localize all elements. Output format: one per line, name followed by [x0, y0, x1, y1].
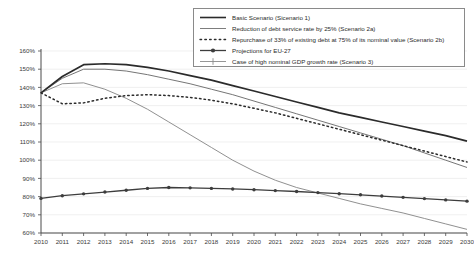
x-axis-tick-label: 2027 — [396, 238, 410, 245]
y-axis-tick-label: 70% — [23, 211, 36, 218]
y-axis-tick-label: 140% — [19, 84, 35, 91]
x-axis-tick-label: 2024 — [332, 238, 346, 245]
chart-legend: Basic Scenario (Sicenario 1) Reduction o… — [193, 8, 465, 67]
y-axis-tick-label: 150% — [19, 65, 35, 72]
data-point-marker — [295, 190, 298, 193]
series-line — [41, 93, 467, 162]
x-axis-tick-label: 2018 — [205, 238, 219, 245]
x-axis-tick-label: 2013 — [98, 238, 112, 245]
data-point-marker — [401, 196, 404, 199]
y-axis-tick-label: 110% — [20, 138, 36, 145]
legend-item: Case of high nominal GDP growth rate (Sc… — [198, 56, 460, 67]
legend-item-label: Repurchase of 33% of existing debt at 75… — [232, 34, 444, 45]
series-line — [41, 64, 467, 141]
data-point-marker — [61, 194, 64, 197]
data-point-marker — [274, 189, 277, 192]
data-point-marker — [210, 187, 213, 190]
gridlines-group — [41, 51, 467, 233]
x-axis-tick-label: 2030 — [460, 238, 474, 245]
x-axis-tick-label: 2028 — [418, 238, 432, 245]
data-point-marker — [423, 197, 426, 200]
legend-item: Repurchase of 33% of existing debt at 75… — [198, 34, 460, 45]
data-point-marker — [125, 189, 128, 192]
x-axis-tick-label: 2012 — [77, 238, 91, 245]
data-point-marker — [146, 187, 149, 190]
y-axis-tick-label: 130% — [19, 102, 35, 109]
data-point-marker — [359, 193, 362, 196]
legend-item: Basic Scenario (Sicenario 1) — [198, 12, 460, 23]
data-point-marker — [316, 191, 319, 194]
x-axis-tick-label: 2022 — [290, 238, 304, 245]
legend-item-label: Case of high nominal GDP growth rate (Sc… — [232, 56, 373, 67]
x-axis-labels: 2010201120122013201420152016201720182019… — [34, 238, 474, 245]
data-point-marker — [380, 194, 383, 197]
marker-line-swatch — [198, 45, 228, 56]
x-axis-tick-label: 2019 — [226, 238, 240, 245]
legend-item-label: Projections for EU-27 — [232, 45, 291, 56]
solid-thin-swatch — [198, 23, 228, 34]
y-axis-tick-label: 160% — [19, 47, 35, 54]
data-point-marker — [465, 199, 468, 202]
axes-group — [41, 49, 467, 233]
x-axis-tick-label: 2011 — [56, 238, 70, 245]
legend-item: Reduction of debt service rate by 25% (S… — [198, 23, 460, 34]
legend-item: Projections for EU-27 — [198, 45, 460, 56]
y-axis-tick-label: 80% — [23, 193, 36, 200]
legend-item-label: Reduction of debt service rate by 25% (S… — [232, 23, 375, 34]
marker-cross-swatch — [198, 56, 228, 67]
data-point-marker — [82, 192, 85, 195]
x-axis-tick-label: 2014 — [119, 238, 133, 245]
data-point-marker — [338, 192, 341, 195]
data-point-marker — [188, 186, 191, 189]
x-axis-tick-label: 2029 — [439, 238, 453, 245]
y-axis-labels: 160%150%140%130%120%110%100%90%80%70%60% — [19, 47, 35, 236]
x-axis-tick-label: 2025 — [354, 238, 368, 245]
data-point-marker — [252, 188, 255, 191]
y-axis-tick-label: 60% — [23, 229, 36, 236]
legend-item-label: Basic Scenario (Sicenario 1) — [232, 12, 310, 23]
data-point-marker — [39, 197, 42, 200]
solid-thick-swatch — [198, 12, 228, 23]
data-point-marker — [444, 198, 447, 201]
x-axis-tick-label: 2016 — [162, 238, 176, 245]
x-axis-tick-label: 2020 — [247, 238, 261, 245]
x-axis-tick-label: 2015 — [141, 238, 155, 245]
series-line — [41, 83, 467, 230]
x-axis-tick-label: 2023 — [311, 238, 325, 245]
dotted-swatch — [198, 34, 228, 45]
data-point-marker — [231, 187, 234, 190]
data-point-marker — [103, 190, 106, 193]
x-axis-tick-label: 2010 — [34, 238, 48, 245]
y-axis-tick-label: 100% — [19, 156, 35, 163]
data-point-marker — [167, 186, 170, 189]
y-axis-tick-label: 90% — [23, 175, 36, 182]
x-axis-tick-label: 2021 — [268, 238, 282, 245]
debt-projection-chart: 160%150%140%130%120%110%100%90%80%70%60%… — [0, 0, 474, 256]
x-axis-tick-label: 2017 — [183, 238, 197, 245]
y-axis-tick-label: 120% — [19, 120, 35, 127]
series-line — [41, 69, 467, 167]
x-axis-tick-label: 2026 — [375, 238, 389, 245]
series-group — [39, 64, 468, 230]
